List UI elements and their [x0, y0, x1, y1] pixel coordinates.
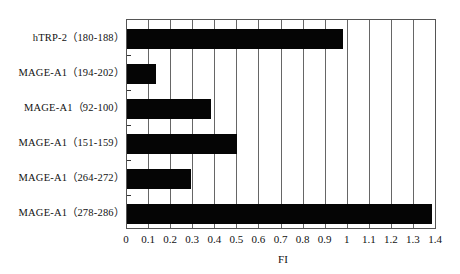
x-tick-label: 0.4	[207, 233, 221, 245]
y-tick-mark	[127, 55, 131, 56]
y-category-label: MAGE-A1（92-100）	[24, 98, 124, 118]
y-tick-mark	[127, 160, 131, 161]
y-tick-mark	[127, 195, 131, 196]
bar	[127, 169, 191, 189]
plot-area	[126, 19, 436, 229]
y-tick-mark	[127, 125, 131, 126]
gridline	[391, 20, 392, 228]
bar	[127, 134, 237, 154]
gridline	[413, 20, 414, 228]
bar	[127, 64, 156, 84]
x-tick-label: 1.1	[362, 233, 376, 245]
fi-bar-chart: hTRP-2（180-188）MAGE-A1（194-202）MAGE-A1（9…	[0, 0, 460, 274]
gridline	[369, 20, 370, 228]
y-category-label: MAGE-A1（278-286）	[19, 203, 124, 223]
bar	[127, 29, 343, 49]
x-tick-label: 0.2	[163, 233, 177, 245]
x-tick-label: 0.3	[185, 233, 199, 245]
gridline	[303, 20, 304, 228]
gridline	[347, 20, 348, 228]
gridline	[148, 20, 149, 228]
x-tick-label: 0.7	[274, 233, 288, 245]
gridline	[170, 20, 171, 228]
bar	[127, 204, 432, 224]
y-category-label: MAGE-A1（264-272）	[19, 168, 124, 188]
gridline	[192, 20, 193, 228]
x-tick-label: 0.6	[252, 233, 266, 245]
x-axis-title: FI	[278, 253, 288, 265]
y-category-label: hTRP-2（180-188）	[33, 28, 124, 48]
gridline	[281, 20, 282, 228]
x-tick-label: 0.8	[296, 233, 310, 245]
bar	[127, 99, 211, 119]
x-tick-label: 0	[123, 233, 129, 245]
gridline	[325, 20, 326, 228]
y-category-label: MAGE-A1（194-202）	[19, 63, 124, 83]
x-tick-label: 1.2	[384, 233, 398, 245]
x-tick-label: 1.3	[406, 233, 420, 245]
gridline	[214, 20, 215, 228]
gridline	[258, 20, 259, 228]
x-tick-label: 1	[344, 233, 350, 245]
x-tick-label: 0.9	[318, 233, 332, 245]
gridline	[236, 20, 237, 228]
y-tick-mark	[127, 90, 131, 91]
x-tick-label: 0.5	[229, 233, 243, 245]
x-tick-label: 1.4	[428, 233, 442, 245]
x-tick-label: 0.1	[141, 233, 155, 245]
y-category-label: MAGE-A1（151-159）	[19, 133, 124, 153]
